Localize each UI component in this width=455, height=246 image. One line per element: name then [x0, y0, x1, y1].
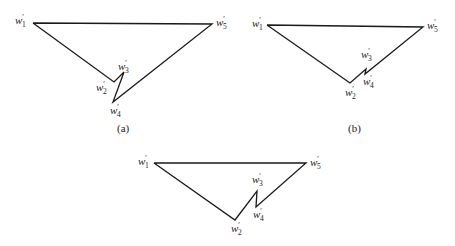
vertex-label-w2: w′2	[345, 85, 356, 101]
polygon-diagram: w′1w′5w′3w′2w′4(a) w′1w′5w′3w′4w′2(b) w′…	[0, 0, 455, 246]
vertex-label-w3: w′3	[252, 172, 263, 188]
vertex-label-w5: w′5	[427, 18, 438, 34]
vertex-label-w2: w′2	[96, 80, 107, 96]
vertex-label-w5: w′5	[310, 155, 321, 171]
polygon-outline	[154, 163, 306, 220]
vertex-label-w4: w′4	[110, 103, 121, 119]
vertex-label-w4: w′4	[363, 74, 374, 90]
panel-b: w′1w′5w′3w′4w′2(b)	[252, 16, 438, 135]
panel-caption: (b)	[348, 122, 361, 135]
vertex-label-w5: w′5	[216, 15, 227, 31]
vertex-label-w2: w′2	[231, 221, 242, 237]
vertex-label-w1: w′1	[252, 16, 263, 32]
vertex-label-w3: w′3	[361, 47, 372, 63]
vertex-label-w1: w′1	[15, 13, 26, 29]
panel-a: w′1w′5w′3w′2w′4(a)	[15, 13, 227, 135]
vertex-label-w1: w′1	[138, 154, 149, 170]
polygon-outline	[267, 25, 423, 83]
vertex-label-w4: w′4	[253, 207, 264, 223]
panel-caption: (a)	[117, 122, 130, 135]
panel-c: w′1w′5w′3w′4w′2	[138, 154, 321, 237]
